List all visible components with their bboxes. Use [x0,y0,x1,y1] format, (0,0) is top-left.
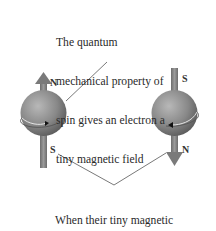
right-bottom-pole-label: N [182,144,189,155]
arrow-down-icon [166,152,183,166]
caption-line: The quantum [56,36,165,49]
left-bottom-pole-label: S [50,144,56,155]
right-top-pole-label: S [182,73,188,84]
bottom-caption: When their tiny magnetic fields are alig… [55,188,176,231]
electron-spin-diagram: N S S N The quantum mechanical property … [0,0,216,231]
caption-line: tiny magnetic field [56,153,165,166]
caption-line: spin gives an electron a [56,114,165,127]
top-caption: The quantum mechanical property of spin … [56,10,165,192]
caption-line: mechanical property of [56,75,165,88]
caption-line: When their tiny magnetic [55,214,176,227]
